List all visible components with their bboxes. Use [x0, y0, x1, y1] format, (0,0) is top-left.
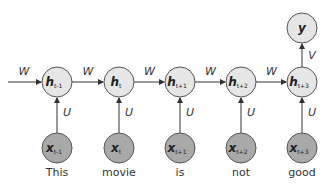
input-node: xt-1: [42, 133, 72, 163]
hidden-state-node: ht-1: [42, 67, 72, 97]
input-node: xt+2: [226, 133, 256, 163]
hidden-state-node: ht+1: [165, 67, 195, 97]
input-word: not: [232, 166, 251, 179]
input-weight-label: U: [308, 106, 316, 119]
recurrent-weight-label: W: [266, 65, 278, 78]
input-word: movie: [102, 166, 136, 179]
input-node: xt+1: [165, 133, 195, 163]
input-weight-label: U: [186, 106, 194, 119]
input-word: good: [288, 166, 315, 179]
input-weight-label: U: [63, 106, 71, 119]
hidden-state-node: ht+2: [226, 67, 256, 97]
recurrent-weight-label: W: [19, 65, 31, 78]
input-word: is: [176, 166, 185, 179]
rnn-diagram: WUWUWUWUWUV ht-1xt-1Thishtxtmovieht+1xt+…: [0, 0, 331, 186]
input-word: This: [45, 166, 69, 179]
input-node: xt: [104, 133, 134, 163]
input-weight-label: U: [125, 106, 133, 119]
input-node: xt+3: [287, 133, 317, 163]
input-weight-label: U: [247, 106, 255, 119]
recurrent-weight-label: W: [205, 65, 217, 78]
recurrent-weight-label: W: [83, 65, 95, 78]
hidden-state-node: ht: [104, 67, 134, 97]
output-weight-label: V: [308, 49, 317, 62]
output-node: y: [287, 13, 317, 43]
recurrent-weight-label: W: [144, 65, 156, 78]
svg-text:y: y: [298, 21, 307, 35]
hidden-state-node: ht+3: [287, 67, 317, 97]
